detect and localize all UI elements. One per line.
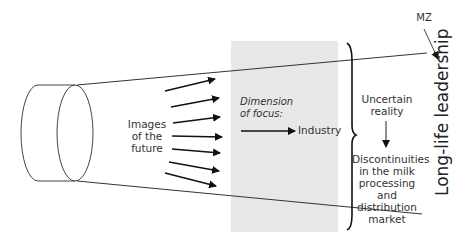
label-line: market (352, 213, 422, 225)
label-line: of the (122, 130, 172, 142)
label-line: distribution (352, 201, 422, 213)
label-line: in the milk (352, 165, 422, 177)
mz-label: MZ (412, 12, 436, 24)
long-life-leadership-label: Long-life leadership (432, 28, 452, 196)
discontinuities-label: Discontinuities in the milk processing a… (352, 153, 422, 225)
image-arrows (165, 79, 222, 186)
label-line: Dimension (240, 96, 320, 108)
label-line: Uncertain (356, 93, 418, 105)
label-line: future (122, 142, 172, 154)
images-of-future-label: Images of the future (122, 118, 172, 154)
label-line: Discontinuities (352, 153, 422, 165)
label-line: reality (356, 105, 418, 117)
label-line: of focus: (240, 108, 320, 120)
lens-cylinder-icon (21, 85, 93, 181)
label-line: Images (122, 118, 172, 130)
uncertain-reality-label: Uncertain reality (356, 93, 418, 117)
label-line: processing and (352, 177, 422, 201)
dimension-of-focus-label: Dimension of focus: (240, 96, 320, 120)
industry-label: Industry (298, 124, 348, 136)
